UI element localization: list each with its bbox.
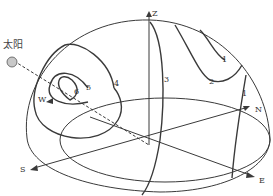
contour-label-4: 4 — [114, 79, 119, 88]
contour-label-1-side: 1 — [242, 89, 247, 98]
hemisphere-outline — [26, 20, 270, 140]
contour-label-2: 2 — [209, 77, 214, 86]
n-label: N — [255, 105, 262, 114]
contour-3 — [142, 22, 163, 195]
e-arrow — [246, 172, 255, 178]
sun-label: 太阳 — [3, 38, 23, 50]
s-arrow — [30, 165, 38, 171]
sun-icon — [7, 57, 17, 67]
n-arrow — [243, 106, 250, 111]
hemisphere-diagram: 太阳 Z N E S W 1 2 3 4 5 6 1 — [0, 0, 273, 196]
contour-label-1: 1 — [222, 55, 227, 64]
s-label: S — [20, 165, 25, 174]
e-label: E — [259, 176, 265, 185]
contour-label-3: 3 — [164, 75, 169, 84]
contour-2 — [175, 25, 242, 82]
w-arrow — [46, 98, 53, 104]
contour-label-5: 5 — [86, 83, 91, 92]
w-label: W — [38, 95, 47, 104]
n-axis — [34, 108, 245, 168]
base-ellipse — [60, 98, 270, 182]
z-label: Z — [152, 9, 158, 18]
contour-label-6: 6 — [74, 87, 79, 96]
